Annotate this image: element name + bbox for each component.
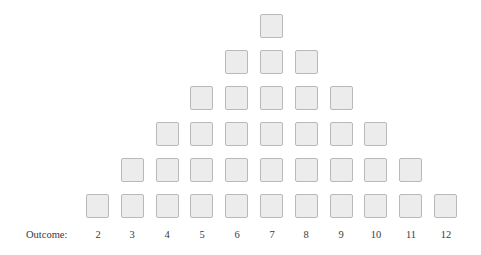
outcome-box — [190, 194, 213, 218]
outcome-box — [260, 86, 283, 110]
outcome-box — [156, 122, 179, 146]
outcome-box — [295, 158, 318, 182]
outcome-label: 5 — [187, 229, 217, 240]
outcome-box — [295, 86, 318, 110]
outcome-box — [260, 50, 283, 74]
outcome-label: 8 — [291, 229, 321, 240]
outcome-box — [364, 194, 387, 218]
outcome-label: 4 — [152, 229, 182, 240]
outcome-box — [330, 194, 353, 218]
outcome-label: 6 — [222, 229, 252, 240]
outcome-label: 2 — [83, 229, 113, 240]
outcome-box — [399, 194, 422, 218]
outcome-label: 10 — [361, 229, 391, 240]
outcome-box — [225, 86, 248, 110]
outcome-box — [364, 158, 387, 182]
outcome-box — [156, 194, 179, 218]
outcome-label: 7 — [257, 229, 287, 240]
outcome-box — [190, 122, 213, 146]
outcome-box — [330, 86, 353, 110]
outcome-box — [295, 122, 318, 146]
outcome-box — [260, 158, 283, 182]
outcome-box — [121, 158, 144, 182]
outcome-box — [434, 194, 457, 218]
outcome-label: 11 — [396, 229, 426, 240]
outcome-box — [260, 122, 283, 146]
outcome-axis-label: Outcome: — [26, 229, 67, 240]
outcome-box — [225, 194, 248, 218]
outcome-box — [295, 194, 318, 218]
outcome-box — [399, 158, 422, 182]
outcome-label: 12 — [431, 229, 461, 240]
outcome-box — [330, 158, 353, 182]
outcome-label: 9 — [326, 229, 356, 240]
outcome-box — [260, 14, 283, 38]
outcome-box — [190, 86, 213, 110]
outcome-box — [330, 122, 353, 146]
outcome-box — [260, 194, 283, 218]
outcome-box — [225, 122, 248, 146]
outcome-box — [86, 194, 109, 218]
outcome-box — [121, 194, 144, 218]
outcome-label: 3 — [117, 229, 147, 240]
outcome-box — [364, 122, 387, 146]
outcome-box — [225, 158, 248, 182]
outcome-box — [190, 158, 213, 182]
outcome-box — [225, 50, 248, 74]
outcome-box — [295, 50, 318, 74]
outcome-box — [156, 158, 179, 182]
